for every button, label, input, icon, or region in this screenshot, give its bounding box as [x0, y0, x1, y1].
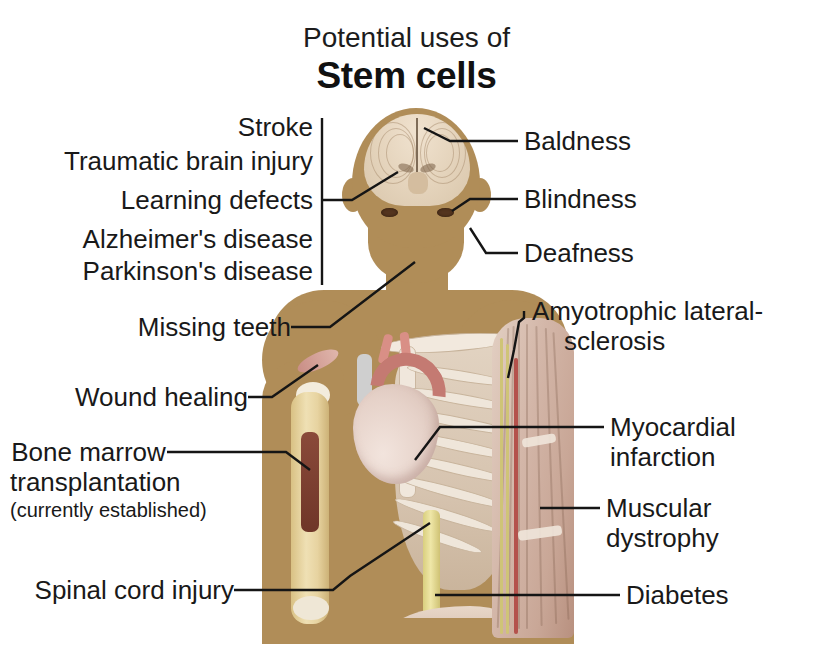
label-myocardial-line1: Myocardial [610, 412, 736, 442]
label-traumatic-brain-injury[interactable]: Traumatic brain injury [64, 146, 313, 176]
label-bone-marrow-transplantation[interactable]: Bone marrow transplantation (currently e… [10, 437, 167, 523]
right-eye [437, 208, 454, 217]
label-bone-marrow-line1: Bone marrow [10, 437, 167, 467]
label-deafness-text: Deafness [524, 238, 634, 268]
muscle-striation [535, 326, 542, 626]
label-deafness[interactable]: Deafness [524, 238, 634, 268]
label-parkinsons-disease-text: Parkinson's disease [83, 256, 313, 286]
brain-cross-section [364, 114, 470, 206]
bone-marrow-cavity [301, 432, 319, 532]
nerve-bundle [506, 344, 509, 634]
label-spinal-cord-injury[interactable]: Spinal cord injury [35, 575, 234, 605]
label-parkinsons-disease[interactable]: Parkinson's disease [83, 256, 313, 286]
label-traumatic-brain-injury-text: Traumatic brain injury [64, 146, 313, 176]
muscle-striation [526, 324, 528, 629]
label-learning-defects[interactable]: Learning defects [121, 185, 313, 215]
brain-stem [408, 172, 428, 194]
label-amyotrophic-lateral-sclerosis[interactable]: Amyotrophic lateral- sclerosis [532, 296, 763, 356]
label-spinal-cord-injury-text: Spinal cord injury [35, 575, 234, 605]
label-baldness-text: Baldness [524, 126, 631, 156]
label-missing-teeth-text: Missing teeth [138, 312, 291, 342]
label-alzheimers-disease-text: Alzheimer's disease [83, 224, 313, 254]
label-als-line2: sclerosis [532, 326, 763, 356]
right-arm-musculature [492, 318, 574, 638]
label-bone-marrow-line2: transplantation [10, 467, 167, 497]
muscle-striation [518, 324, 520, 629]
spinal-cord [423, 510, 440, 618]
stem-cell-diagram: Potential uses of Stem cells [0, 0, 813, 653]
label-wound-healing[interactable]: Wound healing [75, 382, 248, 412]
label-wound-healing-text: Wound healing [75, 382, 248, 412]
bottom-edge-crop [0, 644, 813, 653]
label-diabetes[interactable]: Diabetes [626, 580, 729, 610]
label-als-line1: Amyotrophic lateral- [532, 296, 763, 326]
label-myocardial-line2: infarction [610, 442, 736, 472]
label-stroke[interactable]: Stroke [238, 112, 313, 142]
label-muscular-line1: Muscular [606, 493, 719, 523]
label-stroke-text: Stroke [238, 112, 313, 142]
label-muscular-dystrophy[interactable]: Muscular dystrophy [606, 493, 719, 553]
brachial-artery [514, 358, 518, 634]
label-diabetes-text: Diabetes [626, 580, 729, 610]
label-blindness-text: Blindness [524, 184, 637, 214]
label-missing-teeth[interactable]: Missing teeth [138, 312, 291, 342]
longitudinal-fissure [416, 118, 418, 172]
label-blindness[interactable]: Blindness [524, 184, 637, 214]
label-myocardial-infarction[interactable]: Myocardial infarction [610, 412, 736, 472]
label-alzheimers-disease[interactable]: Alzheimer's disease [83, 224, 313, 254]
nerve-bundle [500, 338, 503, 634]
label-muscular-line2: dystrophy [606, 523, 719, 553]
label-learning-defects-text: Learning defects [121, 185, 313, 215]
elbow-joint [293, 596, 329, 620]
label-baldness[interactable]: Baldness [524, 126, 631, 156]
left-eye [381, 208, 398, 217]
label-bone-marrow-note: (currently established) [10, 497, 167, 523]
